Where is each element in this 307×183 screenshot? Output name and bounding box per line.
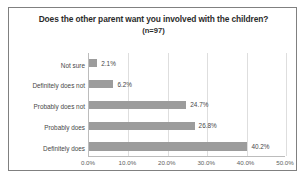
chart-title: Does the other parent want you involved … xyxy=(21,14,286,37)
chart-screenshot: Does the other parent want you involved … xyxy=(0,0,307,183)
bar-value-label: 24.7% xyxy=(190,98,208,111)
bar xyxy=(89,80,113,88)
category-label: Probably does not xyxy=(9,97,85,118)
bar-value-label: 26.8% xyxy=(199,119,217,132)
category-label: Probably does xyxy=(9,118,85,139)
x-tick-label: 10.0% xyxy=(119,159,137,166)
bar xyxy=(89,142,247,150)
bar xyxy=(89,122,195,130)
category-axis-labels: Not sureDefinitely does notProbably does… xyxy=(9,56,85,154)
x-tick-label: 30.0% xyxy=(197,159,215,166)
x-tick-label: 50.0% xyxy=(276,159,294,166)
gridline xyxy=(286,53,287,156)
category-label: Definitely does xyxy=(9,139,85,160)
chart-title-text: Does the other parent want you involved … xyxy=(39,14,269,24)
bar-value-label: 6.2% xyxy=(117,78,132,91)
chart-sample-size: (n=97) xyxy=(21,25,286,36)
x-axis-tick-labels: 0.0%10.0%20.0%30.0%40.0%50.0% xyxy=(88,159,285,171)
x-tick-label: 20.0% xyxy=(158,159,176,166)
bar-series: 2.1%6.2%24.7%26.8%40.2% xyxy=(89,53,285,156)
bar-value-label: 2.1% xyxy=(101,57,116,70)
bar-row: 6.2% xyxy=(89,74,285,95)
bar xyxy=(89,101,186,109)
x-tick-label: 0.0% xyxy=(81,159,95,166)
plot-wrapper: Not sureDefinitely does notProbably does… xyxy=(9,53,296,170)
bar-row: 24.7% xyxy=(89,95,285,116)
category-label: Not sure xyxy=(9,56,85,77)
chart-frame: Does the other parent want you involved … xyxy=(8,7,297,171)
bar-row: 40.2% xyxy=(89,136,285,157)
bar-row: 26.8% xyxy=(89,115,285,136)
bar-value-label: 40.2% xyxy=(251,140,269,153)
bar xyxy=(89,59,97,67)
plot-area: 2.1%6.2%24.7%26.8%40.2% xyxy=(88,53,285,157)
x-tick-label: 40.0% xyxy=(237,159,255,166)
category-label: Definitely does not xyxy=(9,76,85,97)
bar-row: 2.1% xyxy=(89,53,285,74)
